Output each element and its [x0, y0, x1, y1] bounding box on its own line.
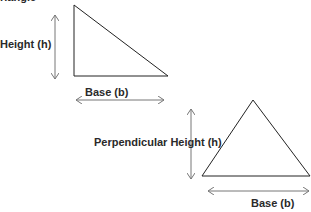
right-triangle-shape [74, 5, 168, 76]
height-label: Height (h) [0, 38, 51, 50]
base-label: Base (b) [85, 86, 128, 98]
perpendicular-height-label: Perpendicular Height (h) [94, 136, 222, 148]
base-label-2: Base (b) [251, 197, 294, 209]
triangle-diagram [0, 0, 311, 212]
